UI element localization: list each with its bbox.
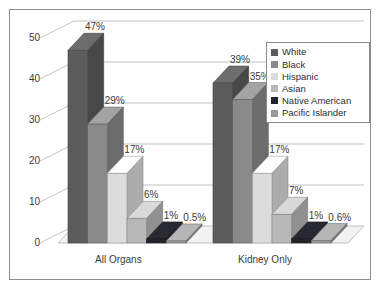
legend-item-label: White [282, 47, 306, 57]
legend-item-hispanic[interactable]: Hispanic [271, 70, 365, 82]
legend-item-pacific-islander[interactable]: Pacific Islander [271, 107, 365, 119]
y-axis-tick-label: 40 [14, 73, 40, 84]
legend-item-black[interactable]: Black [271, 58, 365, 70]
bar-value-label: 7% [289, 185, 303, 196]
legend-item-label: Black [282, 60, 305, 70]
bar-value-label: 6% [144, 189, 158, 200]
legend-swatch-icon [271, 73, 278, 80]
legend-item-native-american[interactable]: Native American [271, 95, 365, 107]
y-axis-tick-label: 30 [14, 114, 40, 125]
y-axis-tick-label: 10 [14, 196, 40, 207]
axis-tick-connector [40, 21, 74, 38]
bar-value-label: 17% [124, 144, 144, 155]
legend-item-white[interactable]: White [271, 46, 365, 58]
legend-swatch-icon [271, 110, 278, 117]
legend-item-label: Pacific Islander [282, 108, 346, 118]
legend-swatch-icon [271, 49, 278, 56]
y-axis-tick-label: 50 [14, 32, 40, 43]
legend-swatch-icon [271, 85, 278, 92]
legend-item-label: Native American [282, 96, 351, 106]
legend-item-asian[interactable]: Asian [271, 83, 365, 95]
x-axis-category-label: All Organs [95, 254, 142, 265]
chart-root: 50403020100 All OrgansKidney Only 47%29%… [0, 0, 383, 292]
bar-value-label: 0.6% [328, 212, 351, 223]
legend-item-label: Asian [282, 84, 306, 94]
y-axis-tick-label: 0 [14, 237, 40, 248]
bar-value-label: 47% [85, 21, 105, 32]
bar-value-label: 0.5% [183, 212, 206, 223]
x-axis-category-label: Kidney Only [238, 254, 292, 265]
legend-item-label: Hispanic [282, 72, 318, 82]
y-axis-tick-label: 20 [14, 155, 40, 166]
bar-value-label: 29% [105, 95, 125, 106]
bar-value-label: 1% [309, 210, 323, 221]
bar-value-label: 39% [230, 54, 250, 65]
legend-swatch-icon [271, 97, 278, 104]
bar-value-label: 1% [164, 210, 178, 221]
legend-swatch-icon [271, 61, 278, 68]
bar-value-label: 17% [269, 144, 289, 155]
chart-legend: WhiteBlackHispanicAsianNative AmericanPa… [266, 42, 370, 123]
